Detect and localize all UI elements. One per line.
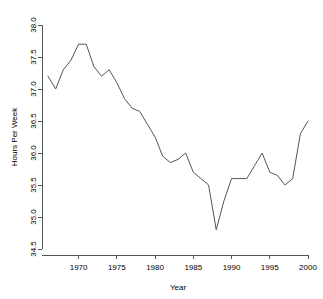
x-axis-title: Year (170, 283, 187, 292)
x-tick-label: 1980 (146, 263, 164, 272)
line-chart-plot: 34.535.035.536.036.537.037.538.0 Hours P… (0, 0, 323, 299)
x-tick-label: 1995 (261, 263, 279, 272)
chart-figure: 34.535.035.536.036.537.037.538.0 Hours P… (0, 0, 323, 299)
y-tick-label: 38.0 (29, 17, 38, 33)
x-axis: 1970197519801985199019952000 Year (42, 255, 317, 292)
x-tick-label: 1990 (223, 263, 241, 272)
data-series-group (48, 44, 308, 230)
x-tick-label: 1975 (108, 263, 126, 272)
x-axis-tick-labels: 1970197519801985199019952000 (70, 263, 318, 272)
y-tick-label: 36.0 (29, 145, 38, 161)
y-tick-label: 35.5 (29, 177, 38, 193)
x-tick-label: 1970 (70, 263, 88, 272)
y-tick-label: 37.0 (29, 81, 38, 97)
x-axis-ticks (79, 255, 308, 259)
y-axis-ticks (38, 25, 42, 249)
x-tick-label: 1985 (184, 263, 202, 272)
y-tick-label: 36.5 (29, 113, 38, 129)
y-axis-tick-labels: 34.535.035.536.036.537.037.538.0 (29, 17, 38, 257)
y-tick-label: 34.5 (29, 241, 38, 257)
y-tick-label: 37.5 (29, 49, 38, 65)
y-tick-label: 35.0 (29, 209, 38, 225)
x-tick-label: 2000 (299, 263, 317, 272)
y-axis: 34.535.035.536.036.537.037.538.0 Hours P… (10, 17, 42, 257)
y-axis-title: Hours Per Week (10, 107, 19, 167)
series-line-hours-per-week (48, 44, 308, 230)
